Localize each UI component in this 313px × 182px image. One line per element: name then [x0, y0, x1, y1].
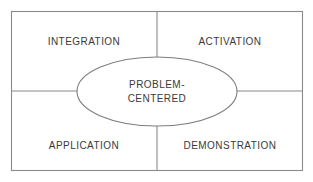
- quadrant-label-activation: ACTIVATION: [157, 35, 303, 48]
- center-label-line-1: PROBLEM-: [77, 78, 237, 92]
- quadrant-label-application: APPLICATION: [11, 139, 157, 152]
- quadrant-label-integration: INTEGRATION: [11, 35, 157, 48]
- center-label-line-2: CENTERED: [77, 92, 237, 106]
- quadrant-label-demonstration: DEMONSTRATION: [157, 139, 303, 152]
- center-ellipse-label: PROBLEM- CENTERED: [77, 78, 237, 106]
- diagram-canvas: INTEGRATION ACTIVATION APPLICATION DEMON…: [0, 0, 313, 182]
